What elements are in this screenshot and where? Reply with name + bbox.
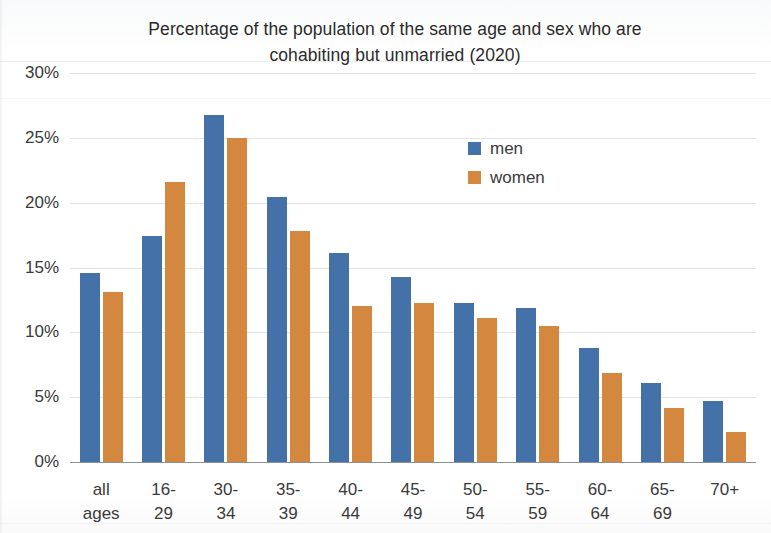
bar-men[interactable] [267,197,287,462]
chart-legend: menwomen [468,134,545,192]
bar-men[interactable] [204,115,224,463]
legend-item-women[interactable]: women [468,163,545,192]
bar-group: 55-59 [507,73,569,462]
bar-men[interactable] [454,303,474,462]
legend-item-men[interactable]: men [468,134,545,163]
x-axis-tick-label: 65-69 [647,478,678,526]
legend-label: men [490,139,523,159]
x-axis-tick-label: 40-44 [335,478,366,526]
bar-groups: all ages16-2930-3435-3940-4445-4950-5455… [70,73,756,462]
legend-swatch-icon [468,142,481,155]
y-axis-tick-label: 5% [34,387,59,407]
y-axis-tick-label: 10% [25,322,59,342]
x-axis-tick-label: 30-34 [210,478,241,526]
legend-swatch-icon [468,171,481,184]
y-axis-tick-label: 25% [25,128,59,148]
y-axis-tick-label: 20% [25,193,59,213]
bar-men[interactable] [579,348,599,462]
bar-women[interactable] [352,306,372,462]
y-axis-tick-label: 15% [25,258,59,278]
bar-group: 70+ [694,73,756,462]
y-axis-tick-label: 30% [25,63,59,83]
bar-women[interactable] [165,182,185,462]
bar-group: 50-54 [444,73,506,462]
chart-title: Percentage of the population of the same… [75,16,715,68]
bar-men[interactable] [391,277,411,462]
bar-women[interactable] [664,408,684,462]
bar-group: 65-69 [631,73,693,462]
bar-women[interactable] [477,318,497,462]
bar-women[interactable] [290,231,310,462]
x-axis-tick-label: all ages [83,478,120,526]
axis-baseline [70,462,756,463]
chart-title-line-2: cohabiting but unmarried (2020) [75,42,715,68]
plot-area: 30%25%20%15%10%5%0% all ages16-2930-3435… [70,73,756,462]
bar-group: 16-29 [132,73,194,462]
x-axis-tick-label: 60-64 [584,478,615,526]
bar-men[interactable] [329,253,349,462]
bar-group: 60-64 [569,73,631,462]
bar-women[interactable] [414,303,434,462]
bar-men[interactable] [516,308,536,462]
x-axis-tick-label: 45-49 [397,478,428,526]
bar-men[interactable] [641,383,661,462]
chart-title-line-1: Percentage of the population of the same… [75,16,715,42]
bar-group: 40-44 [319,73,381,462]
bar-men[interactable] [80,273,100,462]
bar-women[interactable] [103,292,123,462]
bar-men[interactable] [703,401,723,462]
bar-women[interactable] [726,432,746,462]
bar-group: 35-39 [257,73,319,462]
bar-group: 30-34 [195,73,257,462]
x-axis-tick-label: 70+ [710,478,739,502]
x-axis-tick-label: 50-54 [460,478,491,526]
bar-women[interactable] [539,326,559,462]
bar-group: 45-49 [382,73,444,462]
bar-men[interactable] [142,236,162,462]
x-axis-tick-label: 55-59 [522,478,553,526]
bar-women[interactable] [602,373,622,462]
chart-page: Percentage of the population of the same… [0,0,771,533]
legend-label: women [490,168,545,188]
x-axis-tick-label: 35-39 [273,478,304,526]
bar-women[interactable] [227,138,247,462]
bar-group: all ages [70,73,132,462]
x-axis-tick-label: 16-29 [148,478,179,526]
y-axis-tick-label: 0% [34,452,59,472]
